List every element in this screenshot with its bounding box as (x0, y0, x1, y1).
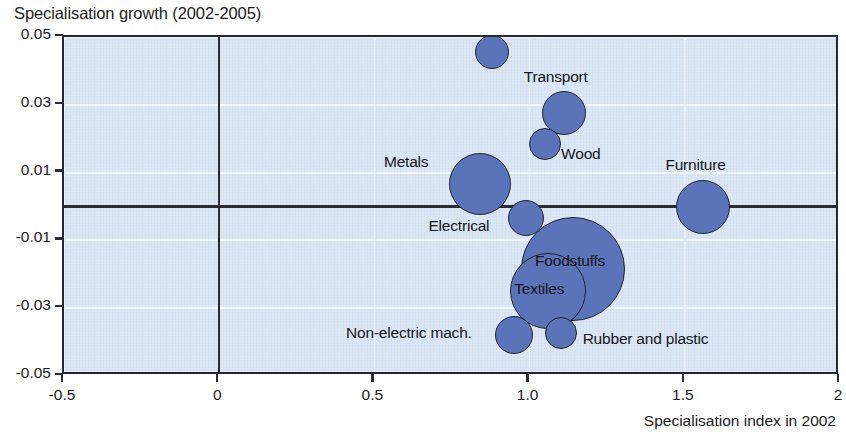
bubble-label-non-electric-mach: Non-electric mach. (346, 324, 472, 342)
gridline-horizontal (64, 104, 836, 106)
x-tick-mark (371, 374, 374, 382)
y-tick-mark (55, 237, 63, 240)
y-tick-mark (55, 102, 63, 105)
bubble-furniture[interactable] (676, 180, 730, 234)
y-tick-mark (55, 169, 63, 172)
gridline-horizontal (64, 36, 836, 38)
bubble-label-furniture: Furniture (665, 156, 725, 174)
x-tick-label: 0 (213, 386, 222, 404)
bubble-label-transport: Transport (524, 68, 588, 86)
y-tick-mark (55, 34, 63, 37)
y-tick-label: 0.05 (21, 25, 51, 43)
x-tick-mark (837, 374, 840, 382)
x-tick-label: 2 (834, 386, 843, 404)
bubble-label-textiles: Textiles (514, 280, 564, 298)
x-tick-mark (682, 374, 685, 382)
x-tick-mark (216, 374, 219, 382)
bubble-chart: Specialisation growth (2002-2005) PaperT… (0, 0, 846, 437)
x-axis-title: Specialisation index in 2002 (644, 412, 836, 430)
gridline-horizontal (64, 307, 836, 309)
bubble-label-metals: Metals (384, 153, 428, 171)
y-tick-label: 0.01 (21, 161, 51, 179)
y-tick-label: 0.03 (21, 93, 51, 111)
y-tick-label: -0.03 (16, 296, 51, 314)
bubble-label-rubber-and-plastic: Rubber and plastic (583, 330, 709, 348)
x-tick-mark (526, 374, 529, 382)
bubble-rubber-and-plastic[interactable] (545, 317, 577, 349)
bubble-non-electric-mach[interactable] (495, 316, 533, 354)
y-tick-label: -0.05 (16, 364, 51, 382)
bubble-metals[interactable] (449, 153, 511, 215)
bubble-label-electrical: Electrical (428, 217, 489, 235)
x-tick-label: -0.5 (49, 386, 76, 404)
bubble-wood[interactable] (529, 128, 561, 160)
x-tick-mark (61, 374, 64, 382)
bubble-label-foodstuffs: Foodstuffs (535, 252, 605, 270)
y-tick-mark (55, 305, 63, 308)
bubble-label-wood: Wood (561, 145, 600, 163)
zero-line-vertical (218, 37, 221, 372)
x-tick-label: 1.0 (517, 386, 539, 404)
plot-area: PaperTransportWoodMetalsFurnitureElectri… (62, 35, 838, 374)
y-tick-label: -0.01 (16, 228, 51, 246)
x-tick-label: 0.5 (362, 386, 384, 404)
x-tick-label: 1.5 (672, 386, 694, 404)
chart-title: Specialisation growth (2002-2005) (14, 4, 261, 23)
bubble-paper[interactable] (475, 35, 509, 69)
gridline-horizontal (64, 239, 836, 241)
